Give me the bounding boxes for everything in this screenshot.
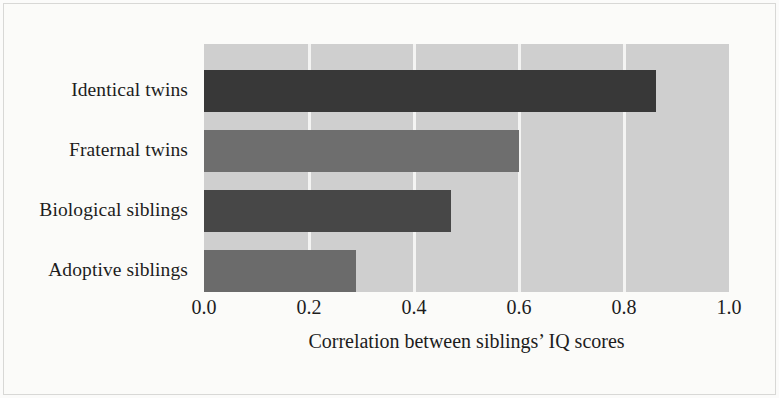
bar xyxy=(204,250,356,292)
category-label: Fraternal twins xyxy=(69,139,188,161)
bar xyxy=(204,190,451,232)
bar xyxy=(204,70,656,112)
category-label: Identical twins xyxy=(71,79,188,101)
category-label: Adoptive siblings xyxy=(48,259,188,281)
figure: Identical twinsFraternal twinsBiological… xyxy=(0,0,779,398)
category-label: Biological siblings xyxy=(39,199,188,221)
x-axis-title: Correlation between siblings’ IQ scores xyxy=(204,330,729,353)
bar xyxy=(204,130,519,172)
x-axis-ticks: 0.00.20.40.60.81.0 xyxy=(204,296,729,326)
x-tick-label: 1.0 xyxy=(717,296,742,319)
x-tick-label: 0.2 xyxy=(297,296,322,319)
x-tick-label: 0.8 xyxy=(612,296,637,319)
x-tick-label: 0.6 xyxy=(507,296,532,319)
x-tick-label: 0.4 xyxy=(402,296,427,319)
plot-area xyxy=(204,44,729,292)
x-tick-label: 0.0 xyxy=(192,296,217,319)
category-axis-labels: Identical twinsFraternal twinsBiological… xyxy=(0,44,196,292)
